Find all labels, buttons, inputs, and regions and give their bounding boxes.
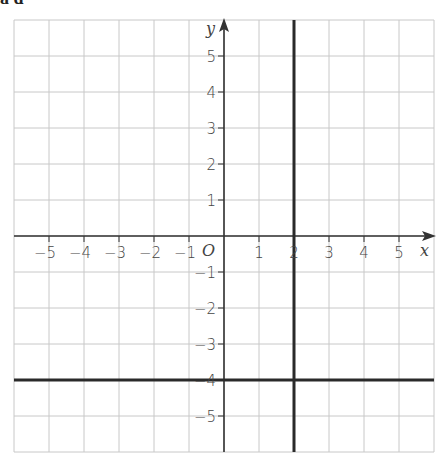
y-tick-label: −4 (194, 372, 216, 390)
y-tick-label: 2 (206, 156, 216, 174)
x-tick-label: 3 (324, 244, 334, 262)
y-tick-label: 1 (206, 192, 216, 210)
origin-label: O (202, 241, 215, 260)
coordinate-grid: −5−4−3−2−11234554321−1−2−3−4−5Oxy (0, 0, 441, 464)
x-tick-label: 4 (359, 244, 369, 262)
x-tick-label: 2 (289, 244, 299, 262)
y-tick-label: −3 (194, 336, 216, 354)
x-tick-label: −4 (69, 244, 91, 262)
axes (14, 18, 436, 452)
x-tick-label: 5 (394, 244, 404, 262)
x-tick-label: −1 (174, 244, 196, 262)
y-tick-label: 4 (206, 84, 216, 102)
x-axis-label: x (420, 241, 429, 260)
y-tick-label: −2 (194, 300, 216, 318)
y-tick-label: 5 (206, 48, 216, 66)
y-tick-label: −1 (194, 264, 216, 282)
tick-labels: −5−4−3−2−11234554321−1−2−3−4−5Oxy (34, 19, 429, 426)
x-tick-label: −3 (104, 244, 126, 262)
y-tick-label: 3 (206, 120, 216, 138)
x-tick-label: −2 (139, 244, 161, 262)
x-tick-label: −5 (34, 244, 56, 262)
y-tick-label: −5 (194, 408, 216, 426)
x-tick-label: 1 (254, 244, 264, 262)
y-axis-label: y (205, 19, 216, 38)
